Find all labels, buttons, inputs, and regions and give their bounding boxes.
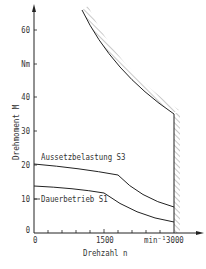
- s3-label: Aussetzbelastung S3: [41, 152, 125, 162]
- y-tick-60: 60: [14, 25, 30, 35]
- x-tick-3000: 3000: [166, 235, 184, 245]
- y-axis-label: Drehmoment M: [11, 105, 21, 160]
- x-axis-label: Drehzahl n: [83, 248, 127, 258]
- y-tick-40: 40: [14, 92, 30, 102]
- x-ticks: [48, 229, 160, 233]
- s1-label: Dauerbetrieb S1: [41, 194, 108, 204]
- x-tick-0: 0: [33, 235, 37, 245]
- x-tick-1500: 1500: [96, 235, 114, 245]
- chart-canvas: [0, 0, 206, 269]
- x-unit-label: min⁻¹: [144, 235, 166, 245]
- y-tick-20: 20: [14, 160, 30, 170]
- x-axis-arrow: [196, 231, 204, 235]
- y-tick-nm: Nm: [14, 59, 30, 69]
- y-axis-arrow: [32, 4, 36, 12]
- curve-s1: [34, 186, 174, 222]
- y-tick-10: 10: [14, 194, 30, 204]
- y-tick-0: 0: [14, 225, 30, 235]
